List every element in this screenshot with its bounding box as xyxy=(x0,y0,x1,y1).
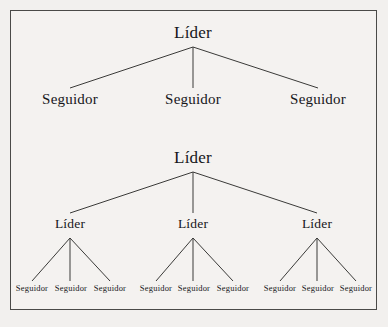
top-root-leader-label: Líder xyxy=(174,23,212,43)
branch-1-follower-2-label: Seguidor xyxy=(55,283,87,293)
branch-1-follower-1-label: Seguidor xyxy=(16,283,48,293)
branch-3-follower-1-label: Seguidor xyxy=(264,283,296,293)
branch-2-leader-label: Líder xyxy=(178,216,208,232)
branch-2-follower-1-label: Seguidor xyxy=(140,283,172,293)
bottom-connector-right xyxy=(193,172,317,213)
branch-3-follower-3-label: Seguidor xyxy=(340,283,372,293)
top-follower-1-label: Seguidor xyxy=(42,91,98,108)
branch-1-connector-right xyxy=(70,238,110,281)
bottom-root-leader-label: Líder xyxy=(174,148,212,168)
branch-3-connector-right xyxy=(317,238,356,281)
branch-2-follower-2-label: Seguidor xyxy=(178,283,210,293)
top-connector-right xyxy=(193,47,318,88)
branch-1-leader-label: Líder xyxy=(55,216,85,232)
branch-2-connector-right xyxy=(193,238,233,281)
branch-2-follower-3-label: Seguidor xyxy=(217,283,249,293)
top-follower-3-label: Seguidor xyxy=(290,91,346,108)
bottom-connector-left xyxy=(70,172,193,213)
branch-3-follower-2-label: Seguidor xyxy=(302,283,334,293)
branch-3-leader-label: Líder xyxy=(302,216,332,232)
branch-1-connector-left xyxy=(32,238,70,281)
top-connector-left xyxy=(70,47,193,88)
branch-1-follower-3-label: Seguidor xyxy=(94,283,126,293)
branch-2-connector-left xyxy=(156,238,193,281)
top-follower-2-label: Seguidor xyxy=(165,91,221,108)
branch-3-connector-left xyxy=(280,238,317,281)
